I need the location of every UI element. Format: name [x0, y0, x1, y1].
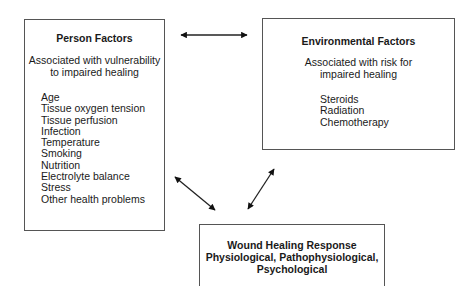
arrow-person-wound — [175, 177, 215, 210]
arrow-environment-wound — [248, 169, 274, 209]
